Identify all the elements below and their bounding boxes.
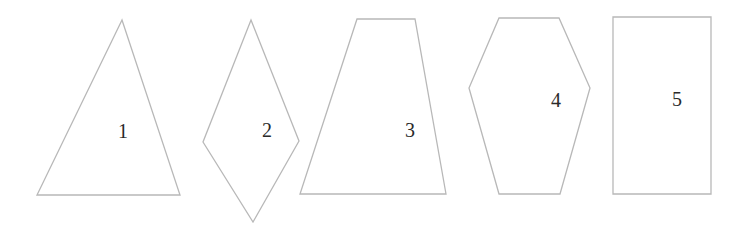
rectangle-outline [613, 17, 711, 194]
trapezoid-outline [300, 19, 446, 194]
triangle-outline [37, 20, 180, 195]
shapes-diagram: 1 2 3 4 5 [0, 0, 744, 231]
shape-3-label: 3 [405, 119, 415, 141]
shape-1-triangle: 1 [37, 20, 180, 195]
shape-5-rectangle: 5 [613, 17, 711, 194]
kite-outline [203, 20, 299, 222]
hexagon-outline [469, 18, 590, 194]
shape-3-trapezoid: 3 [300, 19, 446, 194]
shape-4-hexagon: 4 [469, 18, 590, 194]
shape-4-label: 4 [551, 89, 561, 111]
shape-5-label: 5 [672, 88, 682, 110]
shape-1-label: 1 [118, 120, 128, 142]
shape-2-label: 2 [262, 119, 272, 141]
shape-2-kite: 2 [203, 20, 299, 222]
